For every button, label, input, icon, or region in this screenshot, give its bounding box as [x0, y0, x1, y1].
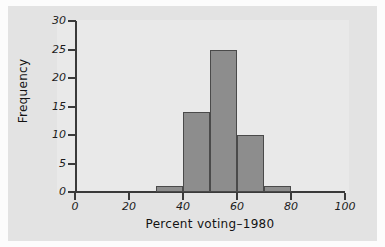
histogram-bar — [183, 112, 210, 192]
histogram-bar — [264, 186, 291, 192]
y-axis-tick-label: 25 — [42, 44, 66, 55]
histogram-bar — [237, 135, 264, 192]
x-axis-tick-label: 80 — [271, 201, 311, 213]
y-axis-tick-label: 0 — [42, 186, 66, 197]
y-axis-tick-label: 5 — [42, 158, 66, 169]
y-axis-tick-label-wrap: 5 — [0, 158, 66, 170]
y-axis-tick-label-wrap: 30 — [0, 15, 66, 27]
x-axis-tick — [74, 193, 76, 200]
x-axis-tick — [128, 193, 130, 200]
x-axis-tick — [182, 193, 184, 200]
y-axis-tick-label-wrap: 10 — [0, 129, 66, 141]
y-axis-tick-label-wrap: 0 — [0, 186, 66, 198]
y-axis-tick-label-wrap: 15 — [0, 101, 66, 113]
x-axis-tick — [344, 193, 346, 200]
y-axis-tick-label: 20 — [42, 72, 66, 83]
y-axis-tick-label: 30 — [42, 15, 66, 26]
y-axis-tick-label: 10 — [42, 129, 66, 140]
x-axis-tick-label: 100 — [325, 201, 365, 213]
x-axis-tick-label: 20 — [109, 201, 149, 213]
y-axis-tick-label-wrap: 25 — [0, 44, 66, 56]
x-axis-tick — [290, 193, 292, 200]
y-axis-tick-label-wrap: 20 — [0, 72, 66, 84]
y-axis-title: Frequency — [16, 46, 30, 136]
x-axis-tick-label: 0 — [55, 201, 95, 213]
histogram-bar — [156, 186, 183, 192]
x-axis-tick-label: 60 — [217, 201, 257, 213]
x-axis-title: Percent voting–1980 — [75, 217, 345, 231]
histogram-bars — [75, 21, 345, 192]
y-axis-tick-label: 15 — [42, 101, 66, 112]
x-axis-tick-label: 40 — [163, 201, 203, 213]
x-axis-tick — [236, 193, 238, 200]
histogram-bar — [210, 50, 237, 193]
histogram-figure: 051015202530 020406080100 Percent voting… — [0, 0, 385, 247]
